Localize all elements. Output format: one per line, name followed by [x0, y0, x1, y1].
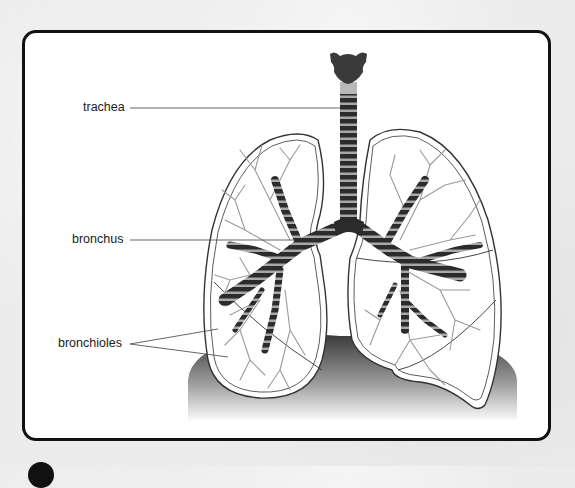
bronchioles-label: bronchioles: [58, 336, 122, 350]
trachea-label: trachea: [83, 100, 125, 114]
corner-badge-circle: [28, 462, 54, 488]
bronchus-label: bronchus: [72, 232, 123, 246]
larynx: [330, 52, 367, 84]
trachea: [334, 82, 364, 236]
